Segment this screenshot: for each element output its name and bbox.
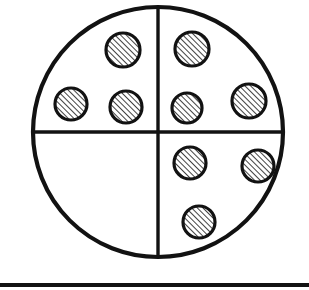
dot-tl-3 <box>110 91 142 123</box>
dot-br-3 <box>183 206 215 238</box>
dot-tr-1 <box>175 32 209 66</box>
dot-tl-1 <box>106 33 140 67</box>
figure-container <box>0 0 309 290</box>
figure-canvas <box>0 0 309 290</box>
dot-br-2 <box>242 150 274 182</box>
dot-tr-2 <box>172 93 202 123</box>
dot-tl-2 <box>55 88 87 120</box>
dot-br-1 <box>174 147 206 179</box>
baseline-bar <box>0 283 309 287</box>
dot-tr-3 <box>232 84 266 118</box>
